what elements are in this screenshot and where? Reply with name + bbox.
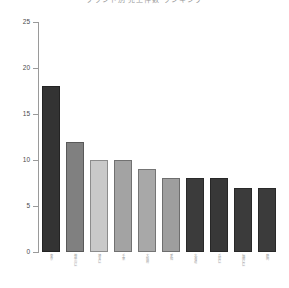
bar[interactable] <box>66 142 84 252</box>
y-axis-tick-label-wrap: 25 <box>0 19 30 25</box>
bar[interactable] <box>42 86 60 252</box>
y-axis-tick <box>33 206 38 207</box>
y-axis-tick-label: 20 <box>4 65 30 71</box>
bar[interactable] <box>114 160 132 252</box>
bar[interactable] <box>234 188 252 252</box>
bar[interactable] <box>162 178 180 252</box>
y-axis-tick-label: 0 <box>4 249 30 255</box>
y-axis-tick-label-wrap: 10 <box>0 157 30 163</box>
y-axis-tick-label: 10 <box>4 157 30 163</box>
y-axis-tick-label-wrap: 15 <box>0 111 30 117</box>
bars-layer <box>39 22 279 252</box>
y-axis-tick <box>33 160 38 161</box>
y-axis-tick-label: 5 <box>4 203 30 209</box>
y-axis-tick <box>33 114 38 115</box>
x-axis-tick-label: 愛知 <box>169 254 173 260</box>
bar[interactable] <box>210 178 228 252</box>
y-axis-tick-label-wrap: 20 <box>0 65 30 71</box>
bar[interactable] <box>138 169 156 252</box>
x-axis-tick-label: 大阪府 <box>145 254 149 263</box>
x-axis-tick-label: 北海道 <box>193 254 197 263</box>
y-axis-tick <box>33 252 38 253</box>
x-axis-tick-label: 埼玉県 <box>97 254 101 263</box>
y-axis-tick <box>33 68 38 69</box>
bar[interactable] <box>186 178 204 252</box>
bar[interactable] <box>90 160 108 252</box>
y-axis-tick <box>33 22 38 23</box>
y-axis-tick-label-wrap: 0 <box>0 249 30 255</box>
bar-chart: ブランド別 売上件数 ランキング 0510152025 東京神奈川県埼玉県千葉大… <box>0 0 289 288</box>
x-axis-tick-label: 静岡 <box>265 254 269 260</box>
bar[interactable] <box>258 188 276 252</box>
y-axis-tick-label: 15 <box>4 111 30 117</box>
chart-title: ブランド別 売上件数 ランキング <box>0 0 289 4</box>
x-axis-tick-label: 神奈川県 <box>73 254 77 266</box>
x-axis-tick-label: 千葉 <box>121 254 125 260</box>
y-axis-tick-label: 25 <box>4 19 30 25</box>
y-axis-tick-label-wrap: 5 <box>0 203 30 209</box>
x-axis-tick-label: 兵庫県 <box>217 254 221 263</box>
x-axis-tick-label: 福岡県県 <box>241 254 245 266</box>
x-axis-tick-label: 東京 <box>49 254 53 260</box>
x-axis-labels: 東京神奈川県埼玉県千葉大阪府愛知北海道兵庫県福岡県県静岡 <box>39 254 279 288</box>
